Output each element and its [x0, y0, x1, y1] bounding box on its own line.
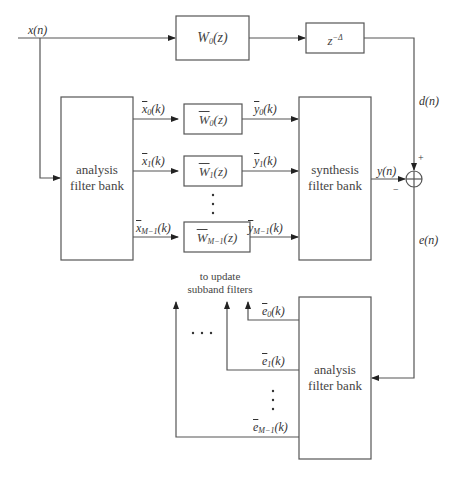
annotation-line2: subband filters	[170, 283, 270, 296]
block-delay: z−Δ	[306, 30, 364, 49]
block-analysis-top: analysis filter bank	[61, 162, 133, 194]
w0-label: W	[197, 30, 209, 45]
annotation-update: to update subband filters	[170, 270, 270, 296]
label-x-n: x(n)	[28, 24, 47, 36]
ysubm1-arg: (k)	[269, 221, 282, 235]
label-e-sub-1: e1(k)	[262, 355, 285, 369]
block-w0: W0(z)	[176, 30, 249, 50]
summer-plus: +	[418, 153, 424, 163]
label-e-sub-0: e0(k)	[262, 305, 285, 319]
ysub1-arg: (k)	[263, 154, 276, 168]
label-x-sub-1: x1(k)	[142, 155, 165, 169]
analysis-top-line2: filter bank	[61, 178, 133, 194]
esubm1-arg: (k)	[274, 420, 287, 434]
xsubm1-arg: (k)	[157, 221, 170, 235]
wsub0-label: W	[199, 112, 210, 127]
xsub0-arg: (k)	[151, 102, 164, 116]
esub1-arg: (k)	[271, 354, 284, 368]
label-d-n: d(n)	[419, 95, 439, 107]
label-y-sub-0: y0(k)	[254, 103, 277, 117]
ysubm1-sub: M−1	[253, 227, 269, 236]
synthesis-line2: filter bank	[299, 178, 371, 194]
w0-arg: (z)	[213, 30, 228, 45]
label-y-sub-1: y1(k)	[254, 155, 277, 169]
wsub1-arg: (z)	[214, 164, 228, 179]
delay-sup: −Δ	[332, 33, 342, 42]
wsubm1-label: W	[197, 230, 208, 245]
label-y-sub-m1: yM−1(k)	[248, 222, 283, 236]
label-x-sub-0: x0(k)	[142, 103, 165, 117]
ysub0-arg: (k)	[263, 102, 276, 116]
label-e-n: e(n)	[419, 234, 438, 246]
wsubm1-sub: M−1	[208, 237, 224, 246]
label-y-n: y(n)	[377, 165, 396, 177]
block-w-sub-0: W0(z)	[184, 112, 242, 132]
block-synthesis: synthesis filter bank	[299, 162, 371, 194]
block-w-sub-m1: WM−1(z)	[184, 230, 250, 250]
analysis-bottom-line2: filter bank	[299, 378, 371, 394]
xsubm1-sub: M−1	[141, 227, 157, 236]
esub0-arg: (k)	[271, 304, 284, 318]
wsubm1-arg: (z)	[224, 230, 238, 245]
analysis-bottom-line1: analysis	[299, 362, 371, 378]
block-analysis-bottom: analysis filter bank	[299, 362, 371, 394]
wsub1-label: W	[199, 164, 210, 179]
label-e-sub-m1: eM−1(k)	[253, 421, 288, 435]
analysis-top-line1: analysis	[61, 162, 133, 178]
label-x-sub-m1: xM−1(k)	[136, 222, 171, 236]
esubm1-sub: M−1	[258, 426, 274, 435]
wsub0-arg: (z)	[214, 112, 228, 127]
summer-minus: −	[393, 185, 399, 195]
block-w-sub-1: W1(z)	[184, 164, 242, 184]
annotation-line1: to update	[170, 270, 270, 283]
synthesis-line1: synthesis	[299, 162, 371, 178]
xsub1-arg: (k)	[151, 154, 164, 168]
